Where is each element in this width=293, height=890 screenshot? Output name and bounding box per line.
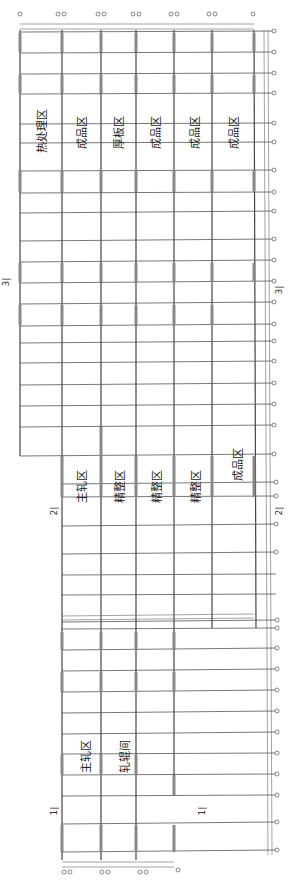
section-mark-3: 3| [1, 278, 11, 287]
zone-label-finished: 成品区 [229, 443, 245, 485]
zone-label-finishing: 精整区 [187, 465, 203, 507]
zone-label-finished: 成品区 [225, 111, 241, 153]
zone-label-finished: 成品区 [73, 111, 89, 153]
section-mark-2: 2| [49, 507, 59, 516]
section-mark-2: 2| [274, 507, 284, 516]
section-mark-1: 1| [49, 807, 59, 816]
section-mark-1: 1| [197, 807, 207, 816]
zone-label-finished: 成品区 [186, 111, 202, 153]
zone-label-heat-treatment: 热处理区 [33, 111, 49, 153]
zone-label-roll-shop: 轧辊间 [116, 735, 132, 777]
zone-label-finished: 成品区 [147, 111, 163, 153]
zone-label-finishing: 精整区 [111, 465, 127, 507]
zone-label-main-rolling: 主轧区 [73, 465, 89, 507]
zone-label-main-rolling: 主轧区 [77, 735, 93, 777]
zone-label-thick-plate: 厚板区 [110, 111, 126, 153]
zone-label-finishing: 精整区 [148, 465, 164, 507]
section-mark-3: 3| [274, 286, 284, 295]
